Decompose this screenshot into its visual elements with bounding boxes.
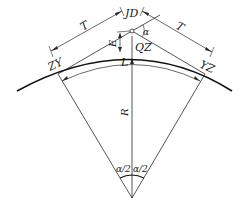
t-arrow-right-a	[142, 11, 149, 16]
t-arrow-left-b	[115, 11, 122, 16]
t-ext-left-a	[49, 46, 53, 57]
label-l: L	[120, 56, 128, 69]
label-yz: YZ	[198, 58, 217, 76]
label-t-left: T	[78, 18, 92, 34]
label-qz: QZ	[135, 41, 152, 54]
l-arrow-right	[194, 76, 200, 81]
jd-point-marker	[130, 29, 134, 33]
e-ext-top	[117, 31, 130, 32]
e-arrow-top	[118, 33, 122, 38]
label-half-angle-right: α/2	[133, 164, 148, 174]
l-arrow-left	[62, 76, 68, 81]
label-t-right: T	[174, 19, 188, 35]
label-jd: JD	[123, 7, 138, 20]
t-arrow-right-b	[205, 47, 212, 52]
label-alpha: α	[143, 27, 149, 37]
radius-line-left	[58, 74, 132, 198]
t-arrow-left-a	[51, 46, 58, 51]
circular-curve-diagram: JD T T E α QZ ZY YZ L R α/2 α/2	[0, 0, 245, 210]
label-r: R	[119, 108, 130, 117]
e-arrow-bottom	[118, 47, 122, 52]
label-e: E	[107, 39, 118, 48]
radius-line-right	[132, 74, 205, 198]
label-half-angle-left: α/2	[116, 164, 131, 174]
